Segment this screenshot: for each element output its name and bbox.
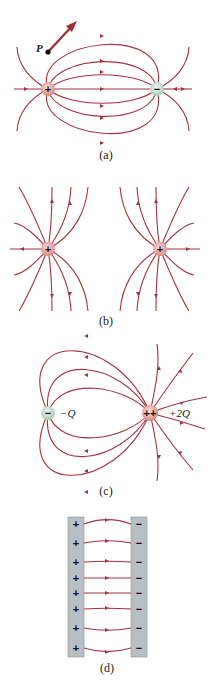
positive-charge-left: +	[41, 242, 55, 256]
charge-sign: +	[45, 83, 51, 95]
negative-charge: −	[150, 82, 164, 96]
panel-b-two-positive: + + (b)	[10, 187, 200, 328]
caption-b: (b)	[99, 314, 113, 328]
charge-sign: −	[154, 83, 160, 95]
plus-sign: +	[73, 572, 79, 584]
charge-sign: −	[45, 407, 51, 419]
charge-sign: +	[157, 243, 163, 255]
panel-a-dipole: + − P (a)	[14, 21, 192, 162]
electric-field-figure: + − P (a)	[0, 0, 213, 680]
caption-a: (a)	[99, 148, 112, 162]
plus-sign: +	[73, 603, 79, 615]
charge-label-pos-2q: +2Q	[169, 407, 190, 419]
minus-sign: −	[136, 642, 142, 654]
minus-sign: −	[136, 572, 142, 584]
field-vector-at-p: P	[36, 21, 77, 55]
negative-charge: − −Q	[41, 406, 75, 420]
minus-sign: −	[136, 587, 142, 599]
caption-c: (c)	[99, 484, 112, 498]
minus-sign: −	[136, 556, 142, 568]
plus-sign: +	[73, 556, 79, 568]
panel-d-parallel-plates: + + + + + + + + − − − − − − − − (d)	[68, 517, 147, 675]
plus-sign: +	[73, 518, 79, 530]
plus-sign: +	[73, 587, 79, 599]
caption-d: (d)	[100, 661, 114, 675]
minus-sign: −	[136, 622, 142, 634]
field-lines	[84, 518, 131, 654]
plus-sign: +	[73, 642, 79, 654]
panel-c-unequal-charges: − −Q ++ +2Q (c)	[40, 334, 207, 498]
charge-sign: +	[45, 243, 51, 255]
plus-sign: +	[73, 622, 79, 634]
positive-charge: +	[41, 82, 55, 96]
minus-sign: −	[136, 603, 142, 615]
minus-sign: −	[136, 518, 142, 530]
charge-label-neg-q: −Q	[60, 407, 75, 419]
minus-sign: −	[136, 537, 142, 549]
plus-sign: +	[73, 537, 79, 549]
positive-charge-right: +	[153, 242, 167, 256]
point-p-label: P	[36, 42, 43, 54]
charge-sign: ++	[144, 407, 157, 419]
